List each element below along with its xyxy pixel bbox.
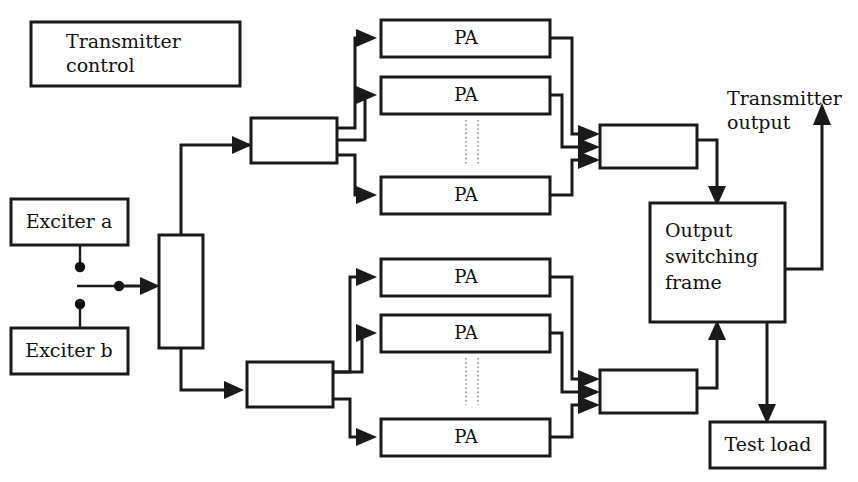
pa-top-3-label: PA: [454, 184, 478, 205]
transmitter-control-label-line1: Transmitter: [66, 30, 182, 52]
top-combiner-to-osf-wire: [697, 140, 717, 190]
top-combiner-block: [550, 38, 726, 206]
exciter-b-block: Exciter b: [11, 328, 128, 374]
output-switching-frame-label-line2: switching: [665, 245, 758, 267]
pa-top-3-block: PA: [381, 177, 550, 214]
test-load-label: Test load: [725, 433, 812, 455]
exciter-a-label: Exciter a: [26, 210, 113, 232]
pa-bottom-2-block: PA: [381, 315, 550, 352]
top-splitter-box: [251, 118, 337, 163]
exciter-changeover-switch[interactable]: [75, 245, 160, 328]
bottom-combiner-box: [600, 370, 697, 413]
pa-bottom-1-block: PA: [381, 259, 550, 296]
switch-contact-a[interactable]: [75, 262, 85, 272]
exciter-a-block: Exciter a: [11, 199, 128, 245]
pa-bottom-1-label: PA: [454, 266, 478, 287]
pa-top-1-block: PA: [381, 20, 550, 57]
transmitter-output-label-line2: output: [727, 111, 791, 133]
arrowhead-combiner-top-in3: [578, 151, 600, 169]
arrowhead-into-distributor: [140, 277, 160, 295]
bottom-combiner-to-osf-wire: [697, 340, 717, 388]
arrowhead-into-pa-bottom-1: [356, 268, 377, 286]
pa-bottom-3-label: PA: [454, 426, 478, 447]
bottom-splitter-block: [247, 268, 377, 446]
pa-bottom-2-label: PA: [454, 322, 478, 343]
pa-top-1-label: PA: [454, 27, 478, 48]
divider-to-top-splitter-wire: [181, 145, 250, 235]
arrowhead-into-bottom-splitter: [224, 381, 244, 399]
bottom-splitter-box: [247, 362, 333, 407]
exciter-b-label: Exciter b: [25, 339, 112, 361]
transmitter-control-label-line2: control: [66, 54, 135, 76]
input-divider-block: [159, 136, 252, 399]
top-splitter-out1-wire: [337, 38, 372, 128]
test-load-block: Test load: [710, 422, 825, 468]
pa-top-1-out-wire: [550, 38, 586, 134]
switch-contact-b[interactable]: [75, 299, 85, 309]
pa-bottom-3-block: PA: [381, 419, 550, 456]
pa-bottom-1-out-wire: [550, 277, 586, 379]
pa-top-2-label: PA: [454, 84, 478, 105]
arrowhead-into-pa-top-1: [356, 29, 377, 47]
top-splitter-out3-wire: [337, 155, 372, 195]
bottom-splitter-out2-wire: [333, 333, 372, 372]
arrowhead-into-pa-bottom-2: [356, 324, 377, 342]
arrowhead-combiner-bottom-in3: [578, 396, 600, 414]
arrowhead-into-top-splitter: [232, 136, 252, 154]
top-splitter-block: [251, 29, 377, 204]
pa-bottom-continuation-ellipsis: [466, 358, 478, 405]
input-divider-box: [159, 235, 203, 348]
top-combiner-box: [600, 125, 697, 168]
transmitter-control-block: Transmitter control: [31, 22, 240, 86]
output-switching-frame-block: Output switching frame: [650, 203, 785, 322]
block-diagram-canvas: Transmitter control Exciter a Exciter b: [0, 0, 858, 482]
bottom-splitter-out3-wire: [333, 399, 372, 437]
test-load-path: [758, 322, 776, 424]
transmitter-output-label-line1: Transmitter: [727, 87, 843, 109]
bottom-splitter-out1-wire: [333, 277, 372, 372]
pa-top-2-block: PA: [381, 77, 550, 114]
output-switching-frame-label-line1: Output: [665, 219, 733, 241]
arrowhead-into-pa-bottom-3: [356, 428, 377, 446]
pa-top-continuation-ellipsis: [466, 120, 478, 165]
transmitter-output-wire: [785, 122, 822, 269]
divider-to-bottom-splitter-wire: [181, 348, 240, 390]
transmitter-block-diagram: Transmitter control Exciter a Exciter b: [0, 0, 858, 482]
output-switching-frame-label-line3: frame: [665, 271, 722, 293]
arrowhead-into-pa-top-3: [356, 186, 377, 204]
